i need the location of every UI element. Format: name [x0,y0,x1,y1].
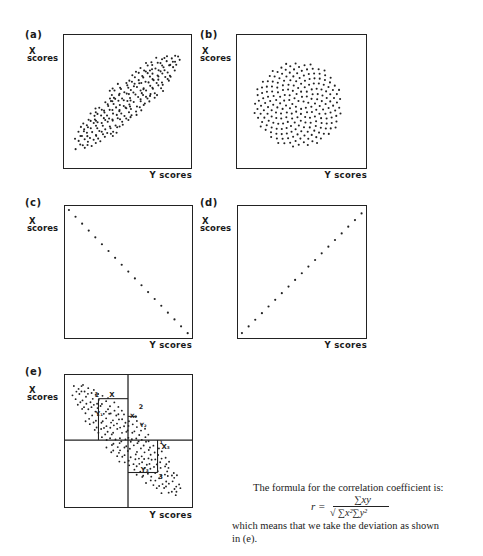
x-axis-label-b: Xscores [200,48,231,62]
x-axis-label-d: Xscores [200,218,231,232]
scatter-plot-b [236,34,367,169]
panel-label-a: (a) [25,29,42,40]
formula-numerator: ∑xy [354,494,371,505]
y-axis-label-b: Y scores [305,170,367,180]
y-axis-label-d: Y scores [305,340,367,350]
scatter-points-b [237,35,366,168]
caption-outro-line1: which means that we take the deviation a… [232,520,439,531]
svg-text:Y₁: Y₁ [95,410,104,418]
scatter-plot-a [63,34,192,169]
formula-denominator: √ ∑x²∑y² [330,507,367,518]
caption-intro: The formula for the correlation coeffici… [253,482,443,493]
panel-label-e: (e) [25,366,42,377]
svg-text:3: 3 [159,473,163,481]
panel-label-b: (b) [200,29,218,40]
scatter-points-c [65,206,192,338]
svg-text:X₂: X₂ [130,413,138,419]
svg-text:X: X [109,391,115,399]
scatter-plot-e: 1XY₁2X₂Y₂X₃Y₃31 [64,374,193,508]
scatter-plot-d [237,205,367,339]
svg-text:Y₂: Y₂ [139,422,147,428]
x-axis-label-c: Xscores [27,218,58,232]
svg-text:1: 1 [95,391,99,399]
y-axis-label-a: Y scores [130,170,192,180]
caption-outro-line2: in (e). [232,533,257,544]
svg-text:Y₃: Y₃ [140,466,149,474]
scatter-points-d [238,206,366,338]
x-axis-label-e: Xscores [27,387,58,401]
y-axis-label-e: Y scores [130,510,192,520]
svg-text:1: 1 [160,439,164,445]
formula-lhs: r = [311,500,325,512]
panel-label-c: (c) [25,197,42,208]
scatter-plot-c [64,205,193,339]
panel-label-d: (d) [200,197,218,208]
svg-text:2: 2 [139,403,143,411]
scatter-points-e: 1XY₁2X₂Y₂X₃Y₃31 [65,375,192,507]
x-axis-label-a: Xscores [27,48,58,62]
scatter-points-a [64,35,191,168]
y-axis-label-c: Y scores [130,340,192,350]
